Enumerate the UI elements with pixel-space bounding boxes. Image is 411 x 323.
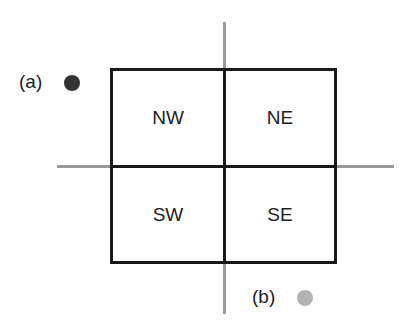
- quadrant-se-label: SE: [267, 204, 292, 226]
- quadrant-sw-label: SW: [153, 204, 184, 226]
- quadrant-grid: NW NE SW SE: [110, 68, 337, 264]
- quadrant-se: SE: [223, 165, 337, 264]
- point-b-dot: [297, 290, 313, 306]
- quadrant-nw-label: NW: [152, 107, 184, 129]
- quadrant-nw: NW: [110, 68, 226, 168]
- point-a-label: (a): [19, 71, 42, 93]
- quadrant-sw: SW: [110, 165, 226, 264]
- point-b-label: (b): [252, 286, 275, 308]
- quadrant-ne-label: NE: [267, 107, 293, 129]
- point-a-dot: [64, 75, 80, 91]
- quadrant-ne: NE: [223, 68, 337, 168]
